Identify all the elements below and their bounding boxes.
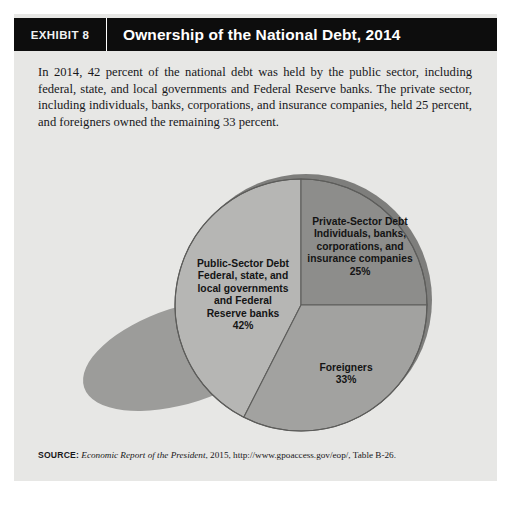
pie-label-private-line-3: corporations, and [317, 241, 404, 252]
pie-value-public-sector: 42% [180, 320, 306, 332]
pie-label-private-line-2: Individuals, banks, [314, 228, 406, 239]
exhibit-header-bar: EXHIBIT 8 Ownership of the National Debt… [14, 18, 497, 51]
pie-label-public-line-1: Public-Sector Debt [197, 258, 289, 269]
source-citation-rest: , 2015, http://www.gpoaccess.gov/eop/, T… [206, 450, 396, 460]
exhibit-description-text: In 2014, 42 percent of the national debt… [38, 64, 472, 130]
pie-label-foreigners-line-1: Foreigners [319, 362, 372, 373]
exhibit-number-label: EXHIBIT 8 [14, 29, 106, 41]
pie-label-public-line-3: local governments [198, 283, 289, 294]
source-publication-title: Economic Report of the President [81, 450, 205, 460]
source-kicker-label: SOURCE: [38, 450, 79, 460]
pie-label-private-line-1: Private-Sector Debt [312, 216, 408, 227]
pie-label-private-line-4: insurance companies [307, 253, 412, 264]
pie-label-public-line-2: Federal, state, and [198, 270, 288, 281]
pie-label-public-line-5: Reserve banks [207, 308, 280, 319]
pie-label-private-sector: Private-Sector Debt Individuals, banks, … [293, 216, 427, 278]
pie-value-foreigners: 33% [300, 374, 392, 386]
pie-label-foreigners: Foreigners 33% [300, 362, 392, 387]
exhibit-page: EXHIBIT 8 Ownership of the National Debt… [0, 0, 511, 507]
exhibit-title: Ownership of the National Debt, 2014 [107, 26, 400, 44]
pie-label-public-sector: Public-Sector Debt Federal, state, and l… [180, 258, 306, 332]
pie-chart: Public-Sector Debt Federal, state, and l… [14, 150, 497, 435]
pie-label-public-line-4: and Federal [214, 295, 272, 306]
pie-value-private-sector: 25% [293, 266, 427, 278]
source-note: SOURCE: Economic Report of the President… [38, 450, 478, 460]
